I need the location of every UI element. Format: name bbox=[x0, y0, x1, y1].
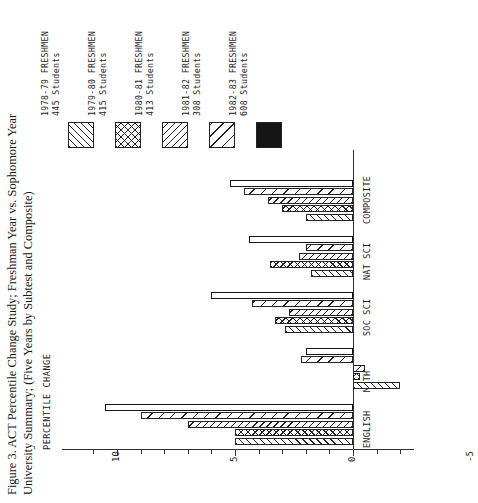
bar bbox=[306, 214, 353, 221]
legend-label-line-2: 608 Students bbox=[239, 31, 250, 116]
legend-label-line-1: 1982-83 FRESHMEN bbox=[228, 31, 238, 116]
bar bbox=[270, 261, 353, 268]
legend-label: 1979-80 FRESHMEN415 Students bbox=[87, 31, 109, 116]
axis-tick-minor bbox=[211, 450, 212, 454]
bar bbox=[252, 300, 353, 307]
bar bbox=[306, 244, 353, 251]
legend-label: 1980-81 FRESHMEN413 Students bbox=[134, 31, 156, 116]
legend-label: 1982-83 FRESHMEN608 Students bbox=[228, 31, 250, 116]
bar bbox=[235, 429, 353, 436]
bar bbox=[289, 309, 353, 316]
bar bbox=[141, 412, 353, 419]
bar bbox=[268, 197, 353, 204]
axis-tick-minor bbox=[329, 450, 330, 454]
axis-tick-label: 5 bbox=[229, 457, 239, 462]
legend-swatch-diagonal-wide-hatch bbox=[209, 122, 235, 148]
bar bbox=[211, 292, 353, 299]
legend-swatch-diagonal-left-hatch bbox=[162, 122, 188, 148]
legend-swatch-solid-black bbox=[256, 122, 282, 148]
axis-tick-minor bbox=[141, 450, 142, 454]
axis-tick-label: 10 bbox=[111, 451, 121, 462]
value-axis-line bbox=[62, 449, 414, 450]
bar bbox=[235, 438, 353, 445]
bar bbox=[275, 317, 353, 324]
legend-label-line-1: 1981-82 FRESHMEN bbox=[181, 31, 191, 116]
legend-swatch-diagonal-right-hatch bbox=[68, 122, 94, 148]
chart-plot-area: 1050-5ENGLISHMATHSOC SCINAT SCICOMPOSITE bbox=[62, 150, 414, 450]
axis-tick-minor bbox=[400, 450, 401, 454]
axis-tick-label: 0 bbox=[347, 457, 357, 462]
axis-tick-minor bbox=[259, 450, 260, 454]
legend-label-line-2: 415 Students bbox=[98, 31, 109, 116]
bar-group-composite bbox=[62, 180, 414, 223]
legend-swatch-cross-hatch bbox=[115, 122, 141, 148]
value-axis-title: PERCENTILE CHANGE bbox=[52, 300, 66, 450]
bar bbox=[282, 205, 353, 212]
legend-label-line-2: 413 Students bbox=[145, 31, 156, 116]
axis-tick-minor bbox=[164, 450, 165, 454]
bar bbox=[188, 421, 353, 428]
axis-tick-minor bbox=[282, 450, 283, 454]
legend-label-line-2: 308 Students bbox=[192, 31, 203, 116]
bar bbox=[285, 326, 353, 333]
legend-entry: 1982-83 FRESHMEN608 Students bbox=[250, 8, 296, 148]
bar bbox=[244, 188, 353, 195]
chart-legend: 1978-79 FRESHMEN445 Students1979-80 FRES… bbox=[62, 8, 302, 148]
bar-group-english bbox=[62, 404, 414, 447]
legend-label-line-2: 445 Students bbox=[51, 31, 62, 116]
bar-group-math bbox=[62, 348, 414, 391]
bar-group-soc-sci bbox=[62, 292, 414, 335]
axis-tick-major bbox=[353, 450, 354, 456]
axis-tick-minor bbox=[188, 450, 189, 454]
bar bbox=[230, 180, 353, 187]
axis-tick-label: -5 bbox=[465, 451, 475, 462]
figure-title-line-2: University Summary; (Five Years by Subte… bbox=[21, 191, 36, 495]
figure-title-line-1: Figure 3. ACT Percentile Change Study; F… bbox=[5, 114, 20, 495]
bar bbox=[299, 253, 353, 260]
axis-tick-minor bbox=[306, 450, 307, 454]
bar bbox=[311, 270, 353, 277]
bar bbox=[306, 348, 353, 355]
axis-tick-minor bbox=[377, 450, 378, 454]
legend-label-line-1: 1979-80 FRESHMEN bbox=[87, 31, 97, 116]
bar bbox=[353, 373, 360, 380]
legend-label: 1981-82 FRESHMEN308 Students bbox=[181, 31, 203, 116]
axis-tick-major bbox=[235, 450, 236, 456]
bar bbox=[249, 236, 353, 243]
bar bbox=[353, 365, 365, 372]
bar-group-nat-sci bbox=[62, 236, 414, 279]
bar bbox=[301, 356, 353, 363]
legend-label-line-1: 1978-79 FRESHMEN bbox=[40, 31, 50, 116]
bar bbox=[105, 404, 353, 411]
legend-label-line-1: 1980-81 FRESHMEN bbox=[134, 31, 144, 116]
value-axis-title-text: PERCENTILE CHANGE bbox=[42, 354, 52, 450]
bar bbox=[353, 382, 400, 389]
axis-tick-minor bbox=[93, 450, 94, 454]
legend-label: 1978-79 FRESHMEN445 Students bbox=[40, 31, 62, 116]
